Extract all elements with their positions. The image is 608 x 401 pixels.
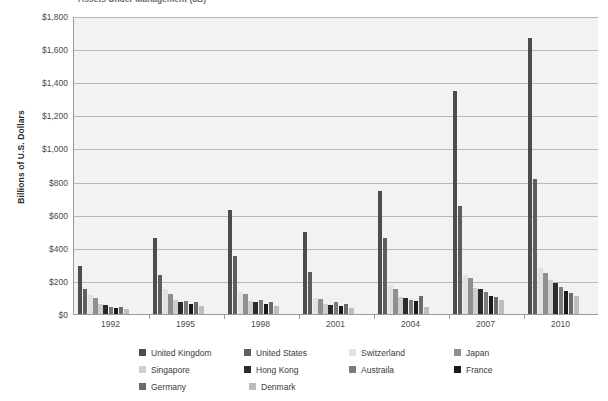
bar-group	[228, 17, 280, 314]
bar	[109, 307, 114, 314]
x-axis-tick-label: 2010	[541, 319, 581, 329]
y-axis-tick-label: $1,800	[22, 12, 68, 22]
legend-swatch-icon	[349, 366, 356, 373]
bar-groups	[74, 17, 598, 314]
legend-label: Hong Kong	[256, 365, 299, 375]
legend-swatch-icon	[139, 349, 146, 356]
x-axis-tick-label: 2004	[391, 319, 431, 329]
axis-tick	[374, 314, 375, 319]
x-axis-tick-label: 1995	[166, 319, 206, 329]
bar	[98, 304, 103, 314]
bar	[303, 232, 308, 314]
bar	[414, 301, 419, 314]
bar	[334, 302, 339, 314]
legend-row: GermanyDenmark	[139, 378, 559, 395]
legend-item-france[interactable]: France	[454, 365, 559, 375]
axis-tick	[299, 314, 300, 319]
bar	[163, 289, 168, 314]
axis-tick	[524, 314, 525, 319]
bar	[538, 268, 543, 314]
legend-label: Germany	[151, 382, 186, 392]
legend-item-denmark[interactable]: Denmark	[249, 382, 359, 392]
bar	[199, 306, 204, 314]
bar-group	[303, 17, 355, 314]
bar	[548, 280, 553, 314]
bar-group	[378, 17, 430, 314]
legend-item-united-states[interactable]: United States	[244, 348, 349, 358]
legend-swatch-icon	[139, 366, 146, 373]
legend-row: SingaporeHong KongAustrailaFrance	[139, 361, 559, 378]
y-axis-tick-label: $1,000	[22, 144, 68, 154]
bar	[543, 273, 548, 314]
y-axis-tick-label: $1,200	[22, 111, 68, 121]
bar	[339, 306, 344, 314]
bar	[178, 302, 183, 314]
bar	[559, 287, 564, 314]
bar	[173, 300, 178, 314]
legend-swatch-icon	[454, 349, 461, 356]
bar	[478, 289, 483, 314]
bar-group	[528, 17, 580, 314]
bar	[569, 293, 574, 314]
legend-label: Japan	[466, 348, 489, 358]
bar	[453, 91, 458, 314]
bar	[124, 309, 129, 314]
legend-label: Denmark	[261, 382, 295, 392]
legend-item-singapore[interactable]: Singapore	[139, 365, 244, 375]
bar	[93, 298, 98, 314]
bar	[248, 301, 253, 314]
bar	[168, 294, 173, 314]
bar	[88, 295, 93, 314]
bar	[344, 304, 349, 314]
bar	[243, 294, 248, 314]
bar	[499, 300, 504, 314]
bar	[419, 296, 424, 314]
legend-label: United Kingdom	[151, 348, 211, 358]
axis-tick	[224, 314, 225, 319]
bar	[253, 302, 258, 314]
bar	[238, 292, 243, 314]
legend-swatch-icon	[454, 366, 461, 373]
legend-item-japan[interactable]: Japan	[454, 348, 559, 358]
bar	[269, 302, 274, 314]
bar	[308, 272, 313, 314]
bar	[409, 300, 414, 314]
legend-item-united-kingdom[interactable]: United Kingdom	[139, 348, 244, 358]
bar	[388, 285, 393, 314]
y-axis-tick-label: $1,600	[22, 45, 68, 55]
bar	[264, 304, 269, 314]
axis-tick	[449, 314, 450, 319]
legend-swatch-icon	[139, 383, 146, 390]
bar	[378, 191, 383, 314]
legend-row: United KingdomUnited StatesSwitzerlandJa…	[139, 344, 559, 361]
bar	[528, 38, 533, 314]
bar-group	[78, 17, 130, 314]
legend-label: United States	[256, 348, 307, 358]
legend-item-germany[interactable]: Germany	[139, 382, 249, 392]
bar	[473, 288, 478, 314]
legend-label: Singapore	[151, 365, 190, 375]
bar	[553, 283, 558, 314]
bar	[83, 289, 88, 314]
bar	[458, 206, 463, 314]
axis-tick	[149, 314, 150, 319]
bar	[318, 299, 323, 314]
plot-area	[73, 17, 598, 315]
chart-title: Assets Under Management ($B)	[78, 0, 308, 6]
legend-item-switzerland[interactable]: Switzerland	[349, 348, 454, 358]
legend-item-hong-kong[interactable]: Hong Kong	[244, 365, 349, 375]
bar	[228, 210, 233, 314]
bar	[484, 292, 489, 314]
bar	[398, 297, 403, 314]
bar	[153, 238, 158, 314]
legend-swatch-icon	[244, 366, 251, 373]
legend-item-austraila[interactable]: Austraila	[349, 365, 454, 375]
x-axis-tick-label: 2001	[316, 319, 356, 329]
bar-group	[153, 17, 205, 314]
bar	[328, 305, 333, 314]
bar-group	[453, 17, 505, 314]
bar	[103, 305, 108, 314]
bar	[494, 297, 499, 314]
legend-swatch-icon	[249, 383, 256, 390]
bar	[424, 307, 429, 314]
